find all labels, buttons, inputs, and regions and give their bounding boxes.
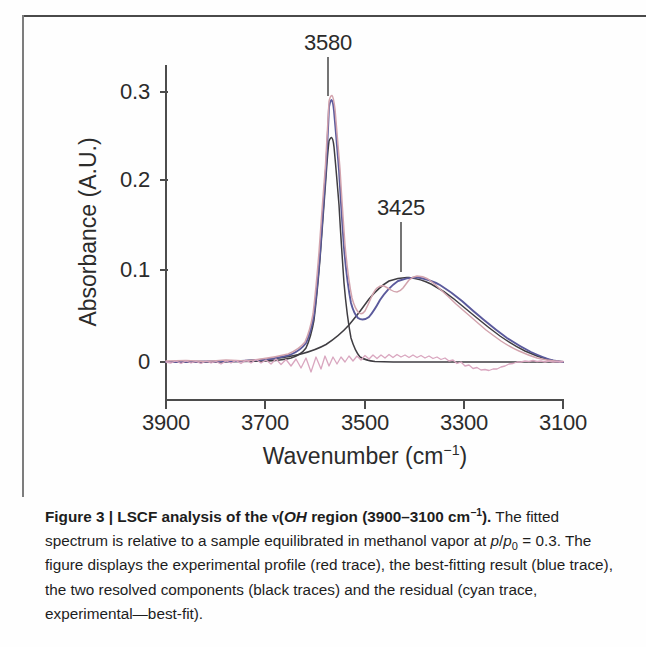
peak-annotation-3580: 3580 bbox=[304, 30, 352, 56]
caption-nu-symbol: ν bbox=[272, 508, 279, 525]
y-tick-label-0.2: 0.2 bbox=[100, 167, 150, 193]
trace-residual bbox=[166, 355, 563, 373]
caption-title-italic: OH bbox=[284, 508, 307, 525]
caption-ratio-value: = 0.3. bbox=[518, 532, 561, 549]
y-tick-label-0.1: 0.1 bbox=[100, 257, 150, 283]
y-tick-label-0.3: 0.3 bbox=[100, 79, 150, 105]
x-tick-label-3700: 3700 bbox=[241, 410, 289, 436]
peak-annotation-3425: 3425 bbox=[377, 195, 425, 221]
caption-title-exponent: −1 bbox=[470, 507, 482, 518]
trace-component-3580 bbox=[166, 138, 563, 363]
caption-ratio-p0: p bbox=[503, 532, 512, 549]
caption-ratio-p: p bbox=[491, 532, 500, 549]
x-axis-title-exponent: −1 bbox=[443, 442, 459, 458]
x-tick-label-3900: 3900 bbox=[142, 410, 190, 436]
figure-caption: Figure 3 | LSCF analysis of the ν(OH reg… bbox=[45, 505, 620, 626]
x-tick-label-3300: 3300 bbox=[440, 410, 488, 436]
x-tick-label-3500: 3500 bbox=[341, 410, 389, 436]
trace-best-fit bbox=[166, 100, 563, 362]
caption-figure-label: Figure 3 bbox=[45, 508, 105, 525]
x-axis-title-close: ) bbox=[460, 443, 468, 469]
figure-page: 0.3 0.2 0.1 0 3900 3700 3500 3300 3100 3… bbox=[0, 0, 646, 647]
caption-title-main: LSCF analysis of the bbox=[117, 508, 272, 525]
x-tick-label-3100: 3100 bbox=[539, 410, 587, 436]
trace-experimental bbox=[166, 95, 563, 361]
x-axis-title: Wavenumber (cm−1) bbox=[263, 443, 468, 470]
caption-title-region: region (3900–3100 cm bbox=[307, 508, 470, 525]
y-axis-title: Absorbance (A.U.) bbox=[75, 137, 102, 326]
spectrum-plot: 0.3 0.2 0.1 0 3900 3700 3500 3300 3100 3… bbox=[0, 0, 646, 500]
caption-title-close: ). bbox=[482, 508, 491, 525]
x-axis-title-text: Wavenumber (cm bbox=[263, 443, 444, 469]
y-tick-label-0: 0 bbox=[100, 349, 150, 375]
